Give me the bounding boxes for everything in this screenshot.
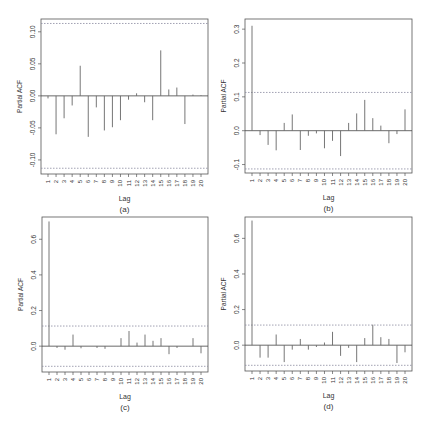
x-tick-label: 4 [273, 376, 279, 380]
pacf-figure-canvas: -0.10-0.050.000.050.10Partial ACF1234567… [0, 0, 427, 427]
x-tick-label: 1 [249, 178, 255, 182]
y-tick-label: 0.3 [233, 24, 240, 33]
x-tick-label: 1 [249, 376, 255, 380]
y-tick-label: 0.05 [29, 57, 36, 70]
y-tick-label: -0.1 [233, 159, 240, 171]
x-tick-label: 3 [265, 178, 271, 182]
y-axis-label: Partial ACF [17, 278, 24, 311]
x-axis-label: Lag [119, 393, 131, 401]
y-tick-label: 0.4 [30, 270, 37, 279]
x-axis-label: Lag [323, 392, 335, 400]
x-tick-label: 11 [126, 377, 132, 384]
x-tick-label: 13 [346, 178, 352, 185]
x-tick-label: 12 [134, 377, 140, 384]
x-tick-label: 2 [257, 178, 263, 182]
x-tick-label: 11 [126, 179, 132, 186]
x-tick-label: 2 [257, 376, 263, 380]
x-tick-label: 12 [134, 179, 140, 186]
x-tick-label: 19 [190, 377, 196, 384]
y-tick-label: 0.4 [233, 269, 240, 278]
x-tick-label: 10 [321, 178, 327, 185]
x-tick-label: 1 [45, 179, 51, 183]
pacf-panel-c: 0.00.20.40.6Partial ACF12345678910111213… [17, 217, 208, 412]
x-tick-label: 14 [354, 178, 360, 185]
x-tick-label: 16 [370, 178, 376, 185]
y-tick-label: 0.00 [29, 89, 36, 102]
x-tick-label: 17 [378, 376, 384, 383]
x-tick-label: 9 [109, 179, 115, 183]
x-tick-label: 18 [182, 377, 188, 384]
pacf-panel-a: -0.10-0.050.000.050.10Partial ACF1234567… [16, 19, 208, 214]
x-tick-label: 5 [78, 377, 84, 381]
x-tick-label: 4 [273, 178, 279, 182]
x-tick-label: 19 [394, 376, 400, 383]
y-axis-label: Partial ACF [220, 80, 227, 113]
y-tick-label: 0.2 [233, 58, 240, 67]
x-tick-label: 19 [394, 178, 400, 185]
y-tick-label: 0.0 [233, 126, 240, 135]
x-tick-label: 19 [190, 179, 196, 186]
x-tick-label: 5 [77, 179, 83, 183]
x-tick-label: 17 [174, 377, 180, 384]
x-tick-label: 6 [289, 178, 295, 182]
x-tick-label: 5 [281, 178, 287, 182]
x-tick-label: 11 [330, 376, 336, 383]
panel-label: (d) [324, 402, 334, 411]
x-tick-label: 6 [85, 179, 91, 183]
x-tick-label: 9 [313, 178, 319, 182]
pacf-panel-b: -0.10.00.10.20.3Partial ACF1234567891011… [220, 19, 412, 213]
plot-frame [245, 19, 412, 173]
x-tick-label: 3 [62, 377, 68, 381]
x-axis-label: Lag [119, 195, 131, 203]
x-tick-label: 15 [362, 178, 368, 185]
x-tick-label: 7 [94, 377, 100, 381]
y-tick-label: 0.2 [30, 306, 37, 315]
x-tick-label: 16 [370, 376, 376, 383]
y-tick-label: 0.1 [233, 92, 240, 101]
y-tick-label: 0.2 [233, 305, 240, 314]
x-tick-label: 13 [142, 377, 148, 384]
x-tick-label: 16 [166, 377, 172, 384]
x-tick-label: 20 [198, 179, 204, 186]
x-tick-label: 18 [386, 376, 392, 383]
x-tick-label: 13 [142, 179, 148, 186]
x-tick-label: 10 [117, 179, 123, 186]
x-tick-label: 6 [289, 376, 295, 380]
plot-frame [245, 217, 412, 371]
y-tick-label: 0.0 [30, 341, 37, 350]
plot-frame [41, 19, 208, 174]
x-tick-label: 3 [265, 376, 271, 380]
x-tick-label: 4 [70, 377, 76, 381]
x-tick-label: 14 [150, 179, 156, 186]
y-tick-label: -0.10 [29, 152, 36, 167]
panel-label: (b) [324, 204, 334, 213]
x-tick-label: 10 [118, 377, 124, 384]
x-tick-label: 2 [53, 179, 59, 183]
x-tick-label: 1 [46, 377, 52, 381]
y-tick-label: 0.10 [29, 25, 36, 38]
panel-label: (a) [120, 205, 130, 214]
x-tick-label: 3 [61, 179, 67, 183]
x-tick-label: 8 [305, 376, 311, 380]
x-tick-label: 20 [402, 178, 408, 185]
x-tick-label: 18 [182, 179, 188, 186]
panel-label: (c) [120, 403, 130, 412]
pacf-figure: -0.10-0.050.000.050.10Partial ACF1234567… [0, 0, 427, 427]
x-tick-label: 9 [313, 376, 319, 380]
x-tick-label: 8 [101, 179, 107, 183]
x-axis-label: Lag [323, 194, 335, 202]
y-axis-label: Partial ACF [220, 278, 227, 311]
x-tick-label: 4 [69, 179, 75, 183]
x-tick-label: 6 [86, 377, 92, 381]
y-tick-label: -0.05 [29, 120, 36, 135]
x-tick-label: 7 [297, 178, 303, 182]
x-tick-label: 20 [198, 377, 204, 384]
x-tick-label: 15 [158, 377, 164, 384]
x-tick-label: 9 [110, 377, 116, 381]
x-tick-label: 14 [354, 376, 360, 383]
x-tick-label: 14 [150, 377, 156, 384]
x-tick-label: 18 [386, 178, 392, 185]
x-tick-label: 2 [54, 377, 60, 381]
x-tick-label: 12 [338, 376, 344, 383]
y-tick-label: 0.0 [233, 340, 240, 349]
